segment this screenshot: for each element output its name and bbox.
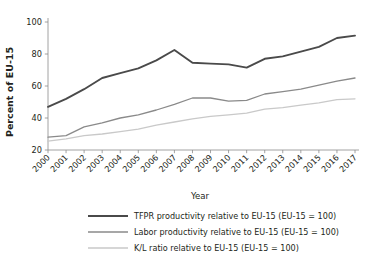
x-tick-label: 2017 (337, 152, 359, 174)
x-tick-label: 2008 (175, 152, 197, 174)
x-tick-label: 2015 (301, 152, 323, 174)
y-tick-label: 40 (32, 113, 42, 123)
data-series-group (48, 36, 355, 142)
y-tick-label: 20 (32, 145, 42, 155)
legend-label-0: TFPR productivity relative to EU-15 (EU-… (133, 211, 336, 221)
chart-figure: 20406080100 2000200120022003200420052006… (0, 0, 370, 263)
y-axis-label: Percent of EU-15 (4, 47, 15, 137)
line-chart: 20406080100 2000200120022003200420052006… (0, 0, 370, 263)
x-tick-label: 2000 (30, 152, 52, 174)
chart-legend: TFPR productivity relative to EU-15 (EU-… (88, 211, 339, 253)
x-tick-label: 2016 (319, 152, 341, 174)
y-tick-label: 80 (32, 49, 42, 59)
x-tick-label: 2005 (120, 152, 142, 174)
x-tick-label: 2001 (48, 152, 70, 174)
x-tick-label: 2003 (84, 152, 106, 174)
x-tick-label: 2007 (157, 152, 179, 174)
x-tick-label: 2004 (102, 152, 124, 174)
series-line-2 (48, 99, 355, 141)
x-tick-label: 2014 (283, 152, 305, 174)
x-tick-label: 2012 (247, 152, 269, 174)
x-axis-label: Year (190, 191, 210, 201)
x-tick-label: 2010 (211, 152, 233, 174)
x-tick-label: 2013 (265, 152, 287, 174)
x-tick-labels: 2000200120022003200420052006200720082009… (30, 152, 359, 174)
x-tick-label: 2006 (138, 152, 160, 174)
legend-label-2: K/L ratio relative to EU-15 (EU-15 = 100… (134, 243, 299, 253)
series-line-1 (48, 78, 355, 137)
y-tick-label: 100 (26, 17, 42, 27)
x-tick-label: 2002 (66, 152, 88, 174)
y-tick-label: 60 (32, 81, 42, 91)
x-tick-label: 2011 (229, 152, 251, 174)
x-tick-label: 2009 (193, 152, 215, 174)
legend-label-1: Labor productivity relative to EU-15 (EU… (134, 227, 339, 237)
x-axis (48, 150, 359, 153)
series-line-0 (48, 36, 355, 107)
y-axis: 20406080100 (26, 17, 48, 155)
